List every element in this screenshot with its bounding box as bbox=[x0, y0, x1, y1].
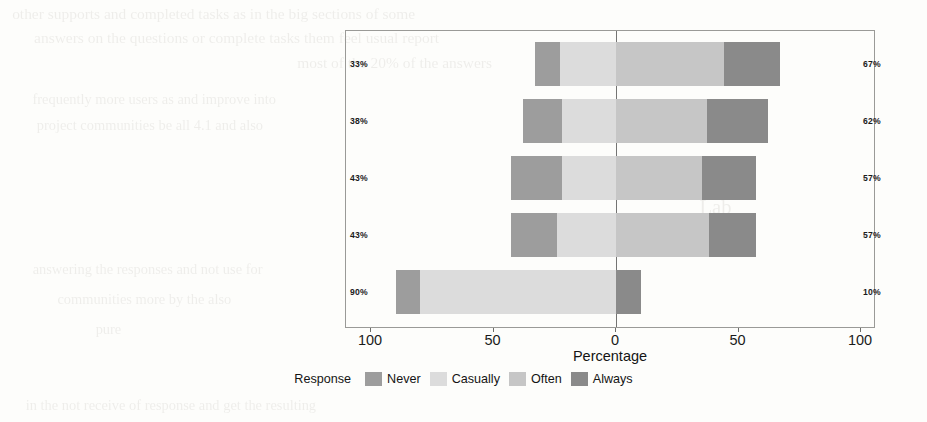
bar-segment-casually bbox=[557, 213, 616, 257]
legend-swatch-often bbox=[509, 372, 526, 386]
x-tick-label: 50 bbox=[729, 332, 745, 348]
stacked-bar bbox=[511, 156, 756, 200]
positive-total-label: 57% bbox=[863, 230, 881, 240]
bar-segment-always bbox=[724, 42, 780, 86]
chart-row: How often did you get satisfying answers… bbox=[346, 205, 874, 265]
stacked-bar bbox=[511, 213, 756, 257]
legend-swatch-never bbox=[365, 372, 382, 386]
negative-total-label: 43% bbox=[350, 230, 368, 240]
x-tick-label: 50 bbox=[484, 332, 500, 348]
legend-item-casually[interactable]: Casually bbox=[430, 372, 500, 386]
x-tick-label: 100 bbox=[358, 332, 382, 348]
bar-segment-often bbox=[616, 213, 709, 257]
bar-segment-never bbox=[511, 213, 558, 257]
x-axis: 10050050100 bbox=[345, 328, 875, 350]
legend-swatch-casually bbox=[430, 372, 447, 386]
bar-segment-often bbox=[616, 99, 707, 143]
stacked-bar bbox=[535, 42, 780, 86]
bar-segment-casually bbox=[562, 99, 616, 143]
chart-row: How often did the developers in the comm… bbox=[346, 34, 874, 94]
stacked-bar bbox=[523, 99, 768, 143]
legend-item-always[interactable]: Always bbox=[571, 372, 633, 386]
legend-title: Response bbox=[294, 372, 351, 386]
negative-total-label: 33% bbox=[350, 59, 368, 69]
negative-total-label: 43% bbox=[350, 173, 368, 183]
bar-segment-casually bbox=[562, 156, 616, 200]
legend-item-often[interactable]: Often bbox=[509, 372, 562, 386]
legend-item-never[interactable]: Never bbox=[365, 372, 421, 386]
legend-label: Often bbox=[531, 372, 562, 386]
chart-row: How often have your issues or questions … bbox=[346, 91, 874, 151]
stacked-bar bbox=[396, 270, 641, 314]
negative-total-label: 38% bbox=[350, 116, 368, 126]
positive-total-label: 10% bbox=[863, 287, 881, 297]
x-tick-label: 100 bbox=[848, 332, 872, 348]
legend-label: Casually bbox=[452, 372, 500, 386]
positive-total-label: 57% bbox=[863, 173, 881, 183]
bar-segment-casually bbox=[420, 270, 616, 314]
bar-segment-never bbox=[396, 270, 421, 314]
bar-segment-casually bbox=[560, 42, 616, 86]
bar-segment-never bbox=[511, 156, 562, 200]
positive-total-label: 62% bbox=[863, 116, 881, 126]
legend-label: Never bbox=[387, 372, 421, 386]
chart-row: How often did you get quick responses (l… bbox=[346, 148, 874, 208]
bar-segment-always bbox=[707, 99, 768, 143]
bar-segment-often bbox=[616, 42, 724, 86]
legend-label: Always bbox=[593, 372, 633, 386]
positive-total-label: 67% bbox=[863, 59, 881, 69]
bar-segment-never bbox=[523, 99, 562, 143]
bar-segment-always bbox=[616, 270, 641, 314]
bar-segment-always bbox=[702, 156, 756, 200]
bar-segment-often bbox=[616, 156, 702, 200]
plot-area: How often did the developers in the comm… bbox=[345, 30, 875, 328]
diverging-stacked-bar-chart: How often did the developers in the comm… bbox=[0, 0, 927, 422]
bar-segment-never bbox=[535, 42, 560, 86]
bar-segment-always bbox=[709, 213, 756, 257]
legend-swatch-always bbox=[571, 372, 588, 386]
chart-legend: Response NeverCasuallyOftenAlways bbox=[0, 372, 927, 386]
chart-row: How often did you participate in the pro… bbox=[346, 262, 874, 322]
negative-total-label: 90% bbox=[350, 287, 368, 297]
x-axis-title: Percentage bbox=[345, 348, 875, 364]
x-tick-label: 0 bbox=[611, 332, 619, 348]
